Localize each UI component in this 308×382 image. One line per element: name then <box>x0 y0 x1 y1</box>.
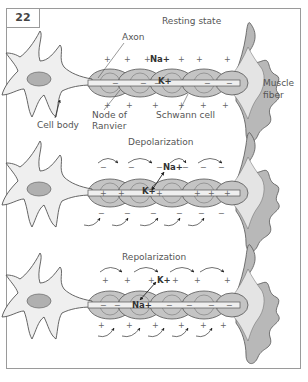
svg-text:+: + <box>194 189 201 198</box>
svg-text:+: + <box>196 55 203 64</box>
label-node-of-ranvier-line2: Ranvier <box>92 121 127 131</box>
ion-k-repolarization: K+ <box>157 275 171 285</box>
svg-text:+: + <box>208 189 215 198</box>
svg-text:+: + <box>172 276 179 285</box>
inside-charges-repol: −−− −−− <box>100 301 233 310</box>
svg-text:−: − <box>166 301 173 310</box>
svg-text:+: + <box>98 321 105 330</box>
label-muscle-fiber-line1: Muscle <box>263 78 295 88</box>
ion-na-repolarization: Na+ <box>132 300 152 310</box>
svg-text:+: + <box>124 276 131 285</box>
label-cell-body: Cell body <box>37 120 80 130</box>
svg-text:−: − <box>208 301 215 310</box>
panel-repolarization: Repolarization K+ Na+ +++ +++ +++ +++ −−… <box>2 245 279 364</box>
neuron-diagram: Resting state Axon Na+ K+ +++ +++ +++ ++… <box>0 0 308 382</box>
svg-text:+: + <box>152 321 159 330</box>
ion-na-resting: Na+ <box>150 54 170 64</box>
svg-text:−: − <box>226 301 233 310</box>
svg-text:−: − <box>182 163 189 172</box>
svg-text:+: + <box>220 321 227 330</box>
svg-text:−: − <box>154 79 161 88</box>
svg-text:−: − <box>198 209 205 218</box>
svg-text:−: − <box>176 209 183 218</box>
svg-text:+: + <box>200 321 207 330</box>
svg-text:+: + <box>156 189 163 198</box>
svg-text:+: + <box>124 55 131 64</box>
svg-text:+: + <box>224 189 231 198</box>
svg-text:−: − <box>100 163 107 172</box>
svg-text:−: − <box>128 163 135 172</box>
svg-text:+: + <box>224 55 231 64</box>
panel-title-depolarization: Depolarization <box>128 137 193 147</box>
svg-text:−: − <box>112 79 119 88</box>
svg-text:+: + <box>100 189 107 198</box>
top-current-arrows-repol <box>100 268 224 273</box>
svg-text:−: − <box>226 79 233 88</box>
svg-text:+: + <box>126 101 133 110</box>
svg-text:+: + <box>178 55 185 64</box>
panel-depolarization: Depolarization Na+ K+ −−− −−− −−− −−− ++… <box>2 133 279 252</box>
svg-text:−: − <box>204 79 211 88</box>
svg-text:+: + <box>148 276 155 285</box>
svg-text:+: + <box>104 55 111 64</box>
label-axon: Axon <box>122 32 144 42</box>
svg-text:−: − <box>150 209 157 218</box>
svg-text:−: − <box>218 209 225 218</box>
svg-text:−: − <box>100 301 107 310</box>
svg-text:−: − <box>114 301 121 310</box>
svg-text:+: + <box>144 55 151 64</box>
label-muscle-fiber-line2: fiber <box>263 90 284 100</box>
svg-text:+: + <box>152 101 159 110</box>
svg-text:+: + <box>178 321 185 330</box>
svg-text:−: − <box>218 163 225 172</box>
svg-text:−: − <box>140 79 147 88</box>
label-node-of-ranvier-line1: Node of <box>92 110 128 120</box>
panel-title-repolarization: Repolarization <box>122 252 186 262</box>
ion-na-depolarization: Na+ <box>163 162 183 172</box>
svg-text:+: + <box>102 276 109 285</box>
svg-text:+: + <box>224 276 231 285</box>
svg-text:−: − <box>98 209 105 218</box>
panel-title-resting: Resting state <box>162 16 222 26</box>
svg-text:−: − <box>124 209 131 218</box>
svg-text:−: − <box>200 163 207 172</box>
svg-text:−: − <box>156 163 163 172</box>
label-schwann-cell: Schwann cell <box>156 110 215 120</box>
svg-text:+: + <box>200 101 207 110</box>
svg-text:+: + <box>126 321 133 330</box>
panel-resting-state: Resting state Axon Na+ K+ +++ +++ +++ ++… <box>2 16 295 142</box>
bottom-current-arrows-depol <box>84 218 204 226</box>
svg-text:+: + <box>118 189 125 198</box>
svg-text:+: + <box>194 276 201 285</box>
svg-text:−: − <box>186 301 193 310</box>
svg-text:+: + <box>222 101 229 110</box>
